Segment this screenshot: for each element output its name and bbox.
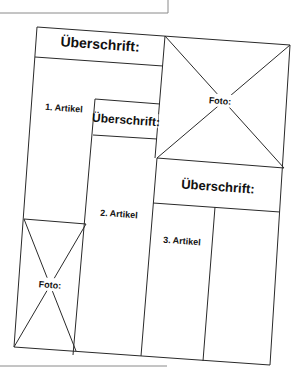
article-1-label: 1. Artikel [45,102,83,115]
headline-3-label: Überschrift: [181,176,256,196]
article-3-label: 3. Artikel [163,235,201,248]
article-3-right [203,207,215,361]
article-3-left [141,158,157,356]
headline-1-label: Überschrift: [60,33,140,54]
layout-diagram: Überschrift: 1. Artikel Überschrift: Fot… [0,0,293,384]
photo-1-label: Foto: [208,95,231,107]
photo-2-top [24,219,86,224]
photo-2-label: Foto: [38,279,61,291]
article-2-label: 2. Artikel [100,208,138,221]
headline-2-bottom [93,135,157,139]
headline-2-label: Überschrift: [92,110,161,130]
top-frame-line [0,0,168,13]
headline-3-divider [153,203,280,212]
photo-1-left-edge [155,36,165,158]
photo-1-bottom [157,158,284,168]
headline-2-top [95,99,160,104]
headline-1-divider [35,57,163,66]
